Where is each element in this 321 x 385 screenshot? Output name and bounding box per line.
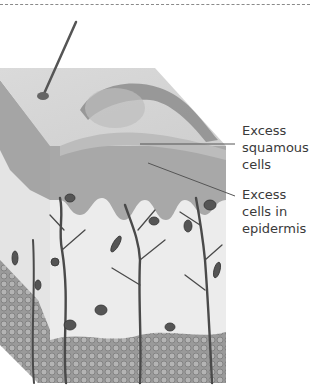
label-excess-cells-epidermis: Excess cells in epidermis bbox=[242, 186, 306, 237]
label-excess-squamous-cells: Excess squamous cells bbox=[242, 122, 309, 173]
front-face bbox=[50, 133, 226, 383]
